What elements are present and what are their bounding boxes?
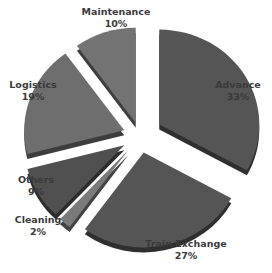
value-logistics: 19%	[22, 91, 45, 102]
pie-svg: Advance33%Train Exchange27%Cleaning2%Oth…	[0, 0, 272, 273]
label-logistics: Logistics	[9, 79, 57, 90]
label-cleaning: Cleaning	[15, 214, 62, 225]
label-train-exchange: Train Exchange	[145, 238, 226, 249]
value-cleaning: 2%	[30, 226, 47, 237]
value-train-exchange: 27%	[175, 250, 198, 261]
label-maintenance: Maintenance	[82, 6, 151, 17]
value-maintenance: 10%	[105, 18, 128, 29]
value-others: 9%	[28, 186, 45, 197]
label-advance: Advance	[215, 79, 261, 90]
value-advance: 33%	[227, 91, 250, 102]
label-others: Others	[18, 174, 55, 185]
pie-chart: Advance33%Train Exchange27%Cleaning2%Oth…	[0, 0, 272, 273]
